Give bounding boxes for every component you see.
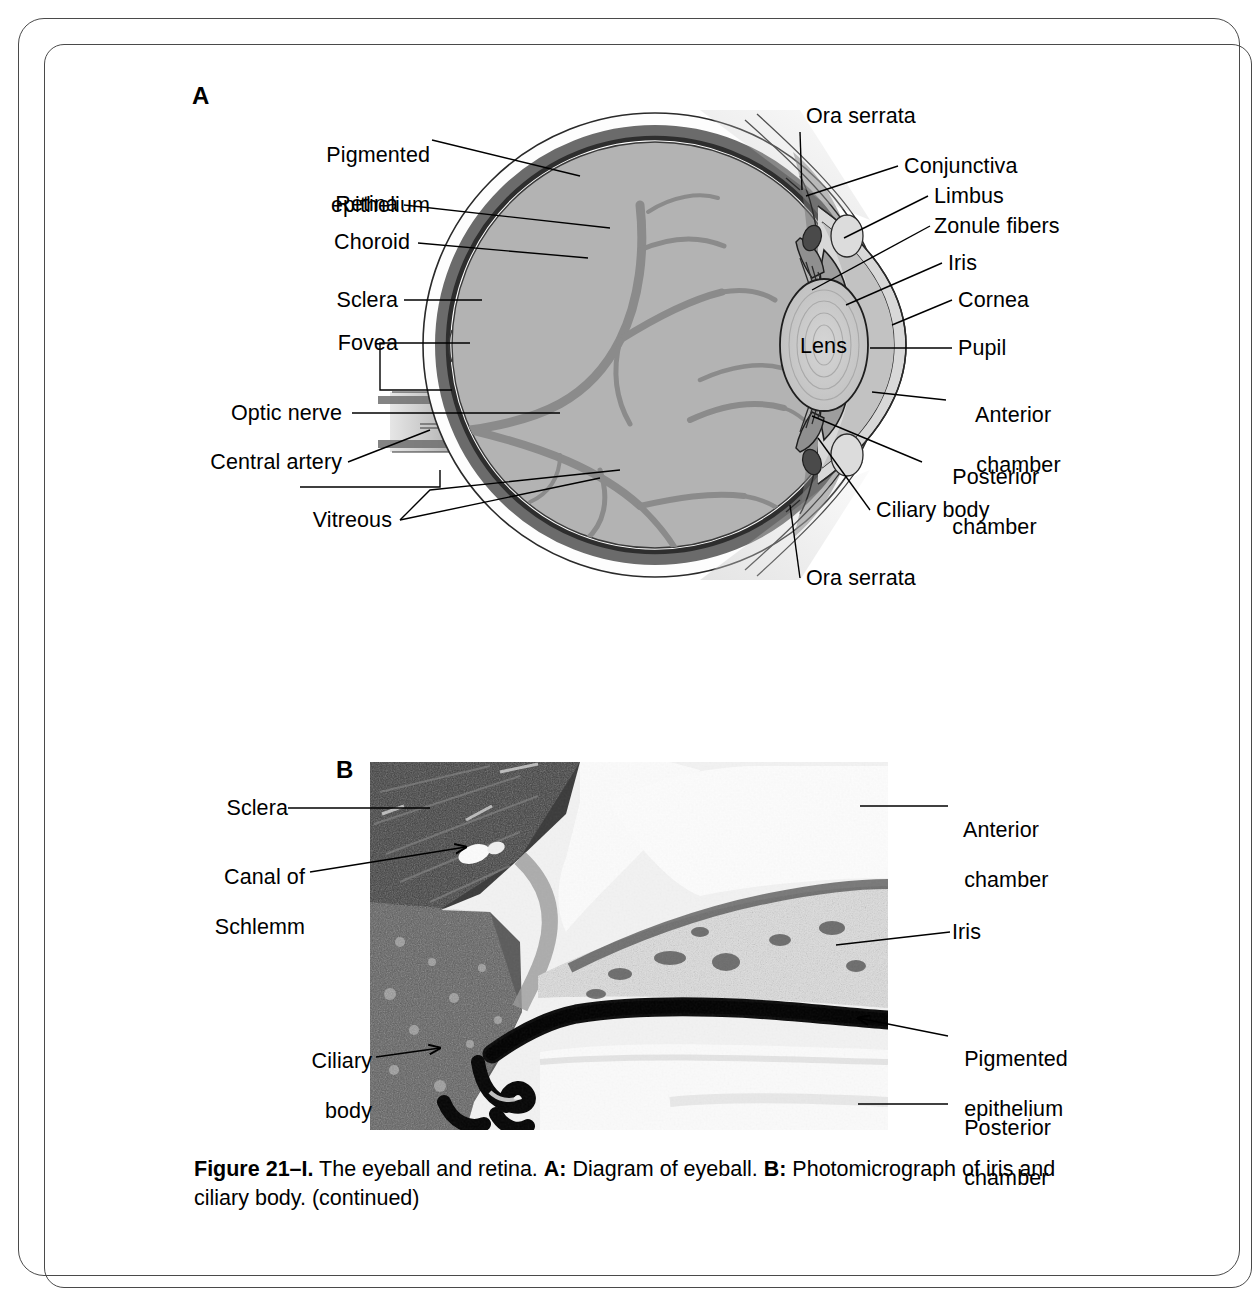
panel-b-photomicrograph [370,762,888,1130]
caption-figure-number: Figure 21–I. [194,1157,314,1181]
label-line-2: Schlemm [215,915,305,939]
label-iris-b: Iris [952,920,981,945]
label-retina-a: Retina [180,192,398,217]
label-line-1: Pigmented [326,143,430,167]
label-fovea-a: Fovea [180,331,398,356]
label-conjunctiva-a: Conjunctiva [904,154,1017,179]
label-line-2: chamber [964,868,1048,892]
label-limbus-a: Limbus [934,184,1004,209]
label-line-1: Pigmented [964,1047,1068,1071]
panel-b-letter: B [336,756,353,784]
label-pigmented-epithelium-a: Pigmented epithelium [180,118,430,243]
label-ciliary-body-b: Ciliary body [180,1024,372,1124]
label-line-1: Ciliary [312,1049,372,1073]
label-cornea-a: Cornea [958,288,1029,313]
label-line-1: Anterior [963,818,1039,842]
label-ora-serrata-bottom-a: Ora serrata [806,566,916,591]
caption-panel-b-tag: B: [764,1157,787,1181]
label-sclera-a: Sclera [180,288,398,313]
label-choroid-a: Choroid [180,230,410,255]
label-anterior-chamber-b: Anterior chamber [952,793,1049,893]
label-optic-nerve-a: Optic nerve [130,401,342,426]
label-ciliary-body-a: Ciliary body [876,498,990,523]
panel-a-diagram: A Pigmented epithelium Retina Choroid Sc… [0,0,1258,700]
label-zonule-fibers-a: Zonule fibers [934,214,1060,239]
label-sclera-b: Sclera [100,796,288,821]
label-ora-serrata-top-a: Ora serrata [806,104,916,129]
label-pupil-a: Pupil [958,336,1006,361]
label-line-1: Anterior [975,403,1051,427]
label-vitreous-a: Vitreous [180,508,392,533]
label-line-1: Posterior [964,1116,1051,1140]
label-line-2: body [325,1099,372,1123]
caption-text-1: The eyeball and retina. [314,1157,544,1181]
photomicrograph-image [370,762,888,1130]
caption-panel-a-tag: A: [544,1157,567,1181]
label-iris-a: Iris [948,251,977,276]
label-lens-a: Lens [800,334,847,359]
label-canal-of-schlemm-b: Canal of Schlemm [100,840,305,940]
label-line-1: Posterior [952,465,1039,489]
label-central-artery-a: Central artery [130,450,342,475]
caption-text-2: Diagram of eyeball. [566,1157,763,1181]
label-line-1: Canal of [224,865,305,889]
figure-caption: Figure 21–I. The eyeball and retina. A: … [194,1155,1074,1213]
panel-a-letter: A [192,82,209,110]
